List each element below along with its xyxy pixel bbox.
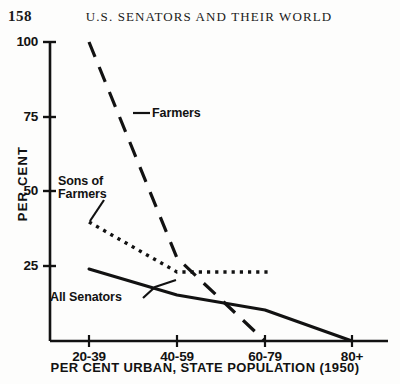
- series-label-sons-of-farmers: Sons of Farmers: [58, 175, 107, 200]
- chart-plot-area: [0, 26, 400, 384]
- leader-line-sons-of-farmers: [90, 200, 104, 221]
- series-label-farmers: Farmers: [152, 107, 201, 120]
- series-label-all-senators: All Senators: [50, 291, 122, 304]
- y-axis-tick-label-25: 25: [0, 258, 38, 273]
- chart-figure: 100 75 50 25 PER CENT 20-39 40-59 60-79 …: [0, 26, 400, 384]
- y-axis-title: PER CENT: [15, 134, 30, 234]
- series-line-sons-of-farmers: [89, 222, 268, 272]
- y-axis-tick-label-100: 100: [0, 34, 38, 49]
- series-line-all-senators: [89, 269, 352, 341]
- y-axis-tick-label-75: 75: [0, 109, 38, 124]
- x-axis-title: PER CENT URBAN, STATE POPULATION (1950): [20, 360, 390, 375]
- figure-page: 158 U.S. SENATORS AND THEIR WORLD: [0, 0, 400, 384]
- running-head: U.S. SENATORS AND THEIR WORLD: [0, 9, 400, 25]
